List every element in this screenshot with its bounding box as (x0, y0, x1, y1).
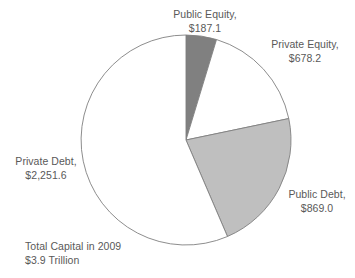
slice-label-private-debt: Private Debt, $2,251.6 (6, 155, 86, 182)
chart-total-annotation-line1: Total Capital in 2009 (25, 240, 175, 254)
slice-label-public-equity-value: $187.1 (168, 22, 242, 36)
pie-chart-figure: Public Equity, $187.1 Private Equity, $6… (0, 0, 355, 278)
slice-label-public-debt: Public Debt, $869.0 (282, 188, 352, 215)
slice-label-private-debt-name: Private Debt, (6, 155, 86, 169)
slice-label-public-debt-value: $869.0 (282, 202, 352, 216)
slice-label-private-debt-value: $2,251.6 (6, 169, 86, 183)
slice-label-private-equity: Private Equity, $678.2 (258, 38, 352, 65)
chart-total-annotation-line2: $3.9 Trillion (25, 254, 175, 268)
slice-label-public-equity-name: Public Equity, (168, 8, 242, 22)
slice-label-private-equity-value: $678.2 (258, 52, 352, 66)
slice-label-private-equity-name: Private Equity, (258, 38, 352, 52)
chart-total-annotation: Total Capital in 2009 $3.9 Trillion (25, 240, 175, 267)
slice-label-public-debt-name: Public Debt, (282, 188, 352, 202)
slice-label-public-equity: Public Equity, $187.1 (168, 8, 242, 35)
